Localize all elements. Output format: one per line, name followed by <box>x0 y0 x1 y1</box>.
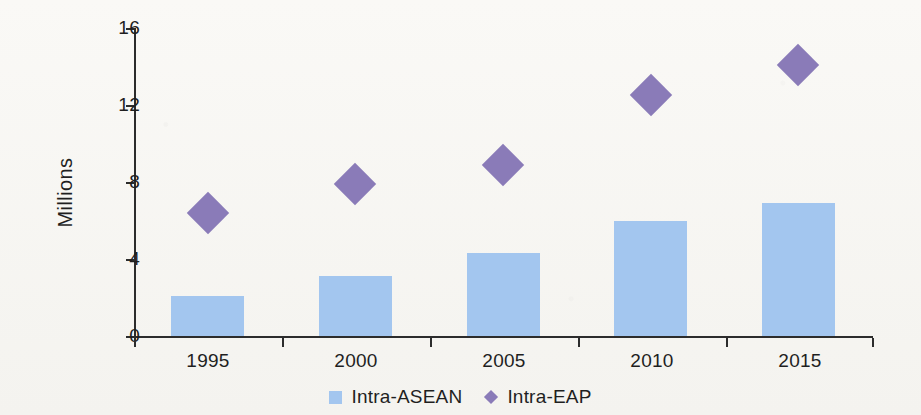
x-axis-tick-2 <box>430 338 432 347</box>
marker-intra-eap-2010 <box>629 74 671 116</box>
y-axis-title: Millions <box>54 128 77 258</box>
legend-item-intra-eap: Intra-EAP <box>484 386 591 408</box>
bar-intra-asean-2000 <box>319 276 392 336</box>
plot-area: 16 12 8 4 0 Millions 1995 2000 2005 2010… <box>0 0 921 415</box>
x-axis-tick-5 <box>872 338 874 347</box>
marker-intra-eap-2000 <box>334 163 376 205</box>
legend-label-intra-asean: Intra-ASEAN <box>351 386 462 408</box>
marker-intra-eap-2005 <box>482 143 524 185</box>
x-axis-tick-4 <box>726 338 728 347</box>
x-axis-label-2015: 2015 <box>740 350 860 372</box>
y-axis-label-4: 4 <box>110 248 140 270</box>
marker-intra-eap-1995 <box>187 192 229 234</box>
x-axis-tick-3 <box>578 338 580 347</box>
x-axis-tick-0 <box>134 338 136 347</box>
bar-intra-asean-2010 <box>614 221 687 337</box>
y-axis-label-8: 8 <box>110 171 140 193</box>
chart-container: 16 12 8 4 0 Millions 1995 2000 2005 2010… <box>0 0 921 415</box>
legend-label-intra-eap: Intra-EAP <box>507 386 591 408</box>
diamond-marker-icon <box>484 390 498 404</box>
x-axis-label-1995: 1995 <box>148 350 268 372</box>
square-marker-icon <box>329 391 342 404</box>
marker-intra-eap-2015 <box>777 43 819 85</box>
y-axis-label-12: 12 <box>110 94 140 116</box>
y-axis-label-16: 16 <box>110 17 140 39</box>
bar-intra-asean-2015 <box>762 203 835 336</box>
x-axis-label-2010: 2010 <box>592 350 712 372</box>
bar-intra-asean-1995 <box>171 296 244 336</box>
x-axis-label-2005: 2005 <box>444 350 564 372</box>
legend-item-intra-asean: Intra-ASEAN <box>329 386 462 408</box>
bar-intra-asean-2005 <box>467 253 540 336</box>
chart-legend: Intra-ASEAN Intra-EAP <box>0 386 921 408</box>
x-axis-label-2000: 2000 <box>296 350 416 372</box>
x-axis-line <box>134 336 873 338</box>
x-axis-tick-1 <box>282 338 284 347</box>
